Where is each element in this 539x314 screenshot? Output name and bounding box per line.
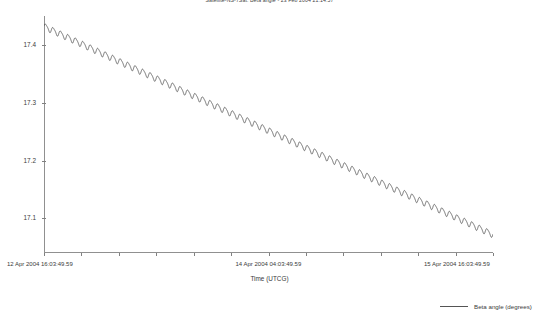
x-axis-tick-mark: [381, 253, 382, 256]
y-axis-tick-mark: [42, 45, 46, 46]
x-axis-tick-mark: [306, 253, 307, 256]
series-line-beta-angle: [44, 24, 493, 237]
y-axis-tick-mark: [42, 161, 46, 162]
y-axis-tick-label: 17.1: [0, 214, 36, 221]
x-axis-tick-mark: [343, 253, 344, 256]
x-axis-tick-label: 12 Apr 2004 16:03:49.59: [7, 261, 73, 267]
x-axis-tick-mark: [493, 253, 494, 256]
x-axis-tick-mark: [456, 253, 457, 256]
x-axis-tick-mark: [81, 253, 82, 256]
beta-angle-line-series: [44, 16, 493, 253]
chart-title: Satellite-NS-7Sat: Beta angle - 23 Feb 2…: [0, 0, 539, 3]
x-axis-tick-mark: [194, 253, 195, 256]
x-axis-tick-mark: [119, 253, 120, 256]
x-axis-tick-mark: [156, 253, 157, 256]
y-axis-tick-mark: [42, 103, 46, 104]
legend-label-beta-angle: Beta angle (degrees): [474, 303, 532, 310]
x-axis-tick-mark: [269, 253, 270, 256]
y-axis-tick-label: 17.4: [0, 41, 36, 48]
x-axis-tick-mark: [44, 253, 45, 256]
x-axis-title: Time (UTCG): [0, 275, 539, 282]
y-axis-tick-label: 17.2: [0, 157, 36, 164]
x-axis-tick-label: 14 Apr 2004 04:03:49.59: [236, 261, 302, 267]
x-axis-tick-label: 15 Apr 2004 16:03:49.59: [424, 261, 490, 267]
x-axis-tick-mark: [231, 253, 232, 256]
y-axis-tick-label: 17.3: [0, 99, 36, 106]
chart-container: Satellite-NS-7Sat: Beta angle - 23 Feb 2…: [0, 0, 539, 314]
y-axis-tick-mark: [42, 218, 46, 219]
chart-legend: Beta angle (degrees): [440, 303, 532, 310]
x-axis-tick-mark: [418, 253, 419, 256]
legend-line-swatch: [440, 306, 468, 307]
